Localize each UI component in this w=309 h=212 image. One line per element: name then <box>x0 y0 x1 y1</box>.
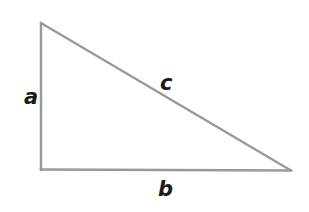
side-c-hypotenuse <box>41 23 291 171</box>
label-b: b <box>158 177 173 201</box>
triangle <box>41 23 291 171</box>
right-triangle-diagram: a c b <box>0 0 309 212</box>
label-a: a <box>24 85 38 109</box>
label-c: c <box>160 71 173 95</box>
side-b-horizontal-leg <box>41 170 291 171</box>
